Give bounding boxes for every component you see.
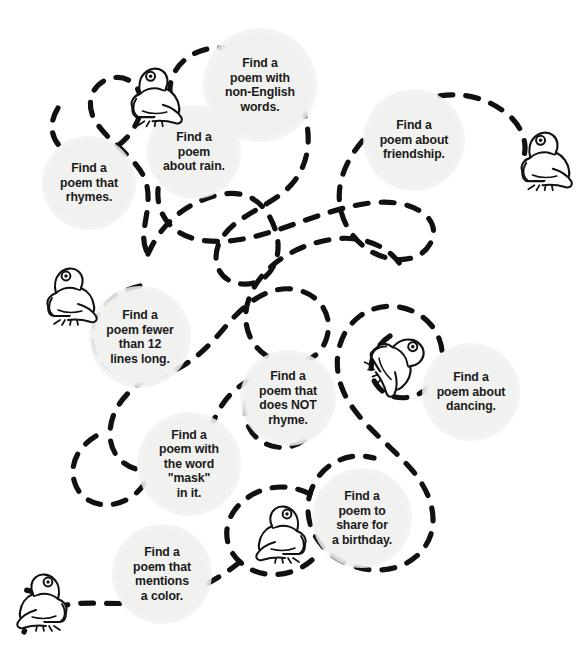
- prompt-bubble-text: Find a poem to share for a birthday.: [332, 489, 392, 547]
- prompt-bubble-fewer-than-12-lines[interactable]: Find a poem fewer than 12 lines long.: [89, 286, 191, 388]
- poetry-scavenger-hunt-worksheet: Find a poem with non-English words.Find …: [0, 0, 584, 664]
- prompt-bubble-text: Find a poem with the word "mask" in it.: [159, 428, 219, 501]
- prompt-bubble-text: Find a poem with non-English words.: [225, 56, 295, 114]
- prompt-bubble-text: Find a poem that rhymes.: [60, 161, 118, 205]
- prompt-bubble-text: Find a poem fewer than 12 lines long.: [106, 308, 173, 366]
- prompt-bubble-mentions-a-color[interactable]: Find a poem that mentions a color.: [112, 524, 212, 624]
- prompt-bubble-word-mask[interactable]: Find a poem with the word "mask" in it.: [137, 412, 241, 516]
- prompt-bubble-layer: Find a poem with non-English words.Find …: [0, 0, 584, 664]
- prompt-bubble-text: Find a poem about dancing.: [437, 370, 506, 414]
- prompt-bubble-birthday[interactable]: Find a poem to share for a birthday.: [312, 468, 412, 568]
- prompt-bubble-about-dancing[interactable]: Find a poem about dancing.: [422, 343, 520, 441]
- prompt-bubble-text: Find a poem about friendship.: [380, 118, 449, 162]
- prompt-bubble-text: Find a poem that does NOT rhyme.: [259, 369, 317, 427]
- prompt-bubble-text: Find a poem that mentions a color.: [133, 545, 191, 603]
- prompt-bubble-rhymes[interactable]: Find a poem that rhymes.: [42, 136, 136, 230]
- prompt-bubble-about-rain[interactable]: Find a poem about rain.: [147, 105, 241, 199]
- prompt-bubble-friendship[interactable]: Find a poem about friendship.: [363, 89, 465, 191]
- prompt-bubble-does-not-rhyme[interactable]: Find a poem that does NOT rhyme.: [240, 350, 336, 446]
- prompt-bubble-text: Find a poem about rain.: [163, 130, 225, 174]
